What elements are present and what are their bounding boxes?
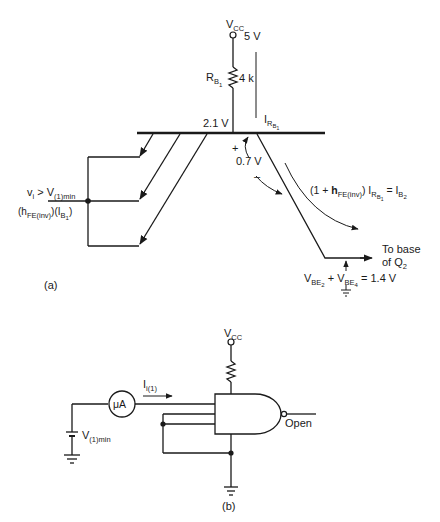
circuit-diagram: VCC 5 V RB1 4 k IRB1 2.1 V vi > V(1)m bbox=[0, 0, 440, 522]
vcc-terminal-b bbox=[228, 339, 234, 345]
dc-source bbox=[66, 432, 78, 436]
figure-b: VCC Open μA Ii(1) bbox=[64, 327, 316, 512]
input-condition-label: vi > V(1)min bbox=[27, 186, 75, 201]
emitter-current-label: (hFE(inv))(IB1) bbox=[18, 206, 72, 221]
figure-a: VCC 5 V RB1 4 k IRB1 2.1 V vi > V(1)m bbox=[18, 18, 421, 296]
emitter-1 bbox=[140, 134, 153, 156]
junction-dot-a bbox=[85, 198, 91, 204]
resistor-rb1 bbox=[229, 67, 237, 88]
vcc-terminal-circle bbox=[230, 32, 236, 38]
junction-dot-b1 bbox=[160, 421, 165, 426]
current-label-irb1: IRB1 bbox=[264, 113, 280, 131]
caption-b: (b) bbox=[222, 500, 235, 512]
vcc-terminal-a: VCC 5 V bbox=[226, 18, 261, 42]
vbc-value: 0.7 V bbox=[236, 155, 262, 167]
resistor-label: RB1 bbox=[206, 71, 223, 88]
to-base-label-2: of Q2 bbox=[382, 256, 407, 271]
vcc-label-a: VCC bbox=[226, 18, 245, 33]
vcc-value: 5 V bbox=[244, 30, 261, 42]
ground-icon-b1 bbox=[64, 455, 80, 463]
caption-a: (a) bbox=[44, 279, 57, 291]
nand-gate bbox=[215, 394, 281, 434]
emitter-3 bbox=[140, 134, 207, 244]
collector-current-equation: (1 + hFE(inv)) IRB1 = IB2 bbox=[310, 184, 407, 202]
resistor-value: 4 k bbox=[239, 72, 254, 84]
microammeter-label: μA bbox=[113, 398, 126, 410]
source-label: V(1)min bbox=[82, 429, 111, 444]
vbc-plus: + bbox=[232, 142, 238, 154]
ground-icon-b2 bbox=[224, 487, 238, 495]
pullup-resistor bbox=[227, 361, 235, 382]
base-voltage-label: 2.1 V bbox=[203, 117, 229, 129]
vbe-equation: VBE2 + VBE4 = 1.4 V bbox=[304, 272, 397, 288]
junction-dot-b2 bbox=[228, 450, 233, 455]
input-current-label: Ii(1) bbox=[143, 378, 157, 393]
output-label: Open bbox=[285, 417, 312, 429]
nand-bubble bbox=[281, 411, 286, 416]
to-base-label-1: To base bbox=[382, 243, 421, 255]
